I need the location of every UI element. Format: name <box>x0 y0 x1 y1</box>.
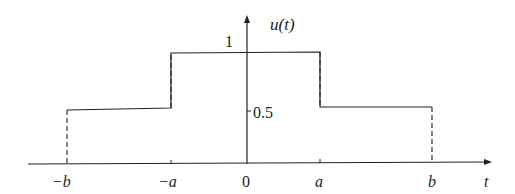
x-tick-a: a <box>315 173 323 190</box>
y-axis-arrow-icon <box>244 15 250 23</box>
x-tick-b: b <box>428 173 436 190</box>
u-curve <box>67 52 432 110</box>
y-tick-0.5: 0.5 <box>253 104 273 121</box>
y-axis-label: u(t) <box>270 15 295 34</box>
x-tick-0: 0 <box>242 173 250 190</box>
x-axis-arrow-icon <box>484 159 492 165</box>
x-axis <box>28 162 486 164</box>
x-axis-label: t <box>484 173 489 190</box>
plot-canvas: u(t) 1 0.5 −b −a 0 a b t <box>0 0 515 194</box>
x-tick-neg-b: −b <box>52 173 71 190</box>
step-function-plot: u(t) 1 0.5 −b −a 0 a b t <box>0 0 515 194</box>
dashed-verticals <box>67 52 432 164</box>
y-tick-1: 1 <box>225 33 233 50</box>
x-tick-neg-a: −a <box>158 173 177 190</box>
